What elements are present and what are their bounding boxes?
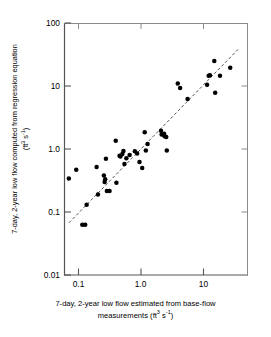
- data-point: [103, 177, 108, 182]
- y-tick-label-0.01: 0.01: [22, 270, 60, 280]
- data-point: [205, 82, 210, 87]
- data-point: [228, 65, 233, 70]
- data-point: [145, 142, 150, 147]
- data-point: [137, 160, 142, 165]
- data-point: [165, 148, 170, 153]
- x-axis-title-line1: 7-day, 2-year low flow estimated from ba…: [8, 298, 263, 310]
- data-point: [94, 165, 99, 170]
- right-axis-ticks: [242, 86, 248, 212]
- data-point: [185, 97, 190, 102]
- data-point: [176, 81, 181, 86]
- data-point: [124, 156, 128, 161]
- data-point: [142, 130, 147, 135]
- y-tick-label-1: 1.0: [22, 144, 60, 154]
- data-point: [218, 74, 223, 79]
- y-tick-label-100: 100: [22, 18, 60, 28]
- data-point: [83, 222, 88, 227]
- data-point: [114, 181, 119, 186]
- figure-container: 7-day, 2-year low flow computed from reg…: [0, 0, 271, 337]
- data-point: [84, 203, 89, 208]
- x-axis-title-line2: measurements (ft3 s-1): [8, 310, 263, 322]
- data-point: [104, 157, 109, 162]
- x-axis-title: 7-day, 2-year low flow estimated from ba…: [8, 298, 263, 321]
- y-tick-label-10: 10: [22, 81, 60, 91]
- scatter-points: [67, 59, 233, 227]
- x-axis-ticks: [79, 269, 204, 276]
- top-axis-ticks: [79, 24, 204, 30]
- y-axis-ticks: [65, 23, 72, 275]
- data-point: [140, 166, 145, 171]
- data-point: [96, 192, 101, 197]
- x-tick-label-1: 1.0: [120, 279, 161, 289]
- x-tick-label-0.1: 0.1: [58, 279, 99, 289]
- data-point: [107, 189, 112, 194]
- data-point: [113, 139, 118, 144]
- x-tick-label-10: 10: [183, 279, 224, 289]
- data-point: [178, 86, 183, 91]
- data-point: [67, 176, 72, 181]
- data-point: [74, 167, 79, 172]
- data-point: [144, 148, 149, 153]
- data-point: [213, 91, 218, 96]
- y-tick-label-0.1: 0.1: [22, 207, 60, 217]
- x-axis-unit-end: ): [171, 311, 174, 320]
- regression-line: [69, 49, 238, 222]
- data-point: [121, 149, 126, 154]
- x-axis-unit-pre: measurements (ft: [98, 311, 157, 320]
- data-point: [164, 135, 169, 140]
- data-point: [122, 162, 127, 167]
- data-point: [127, 153, 132, 158]
- data-point: [102, 173, 107, 178]
- data-point: [135, 151, 140, 156]
- data-point: [208, 73, 213, 78]
- data-point: [212, 59, 217, 64]
